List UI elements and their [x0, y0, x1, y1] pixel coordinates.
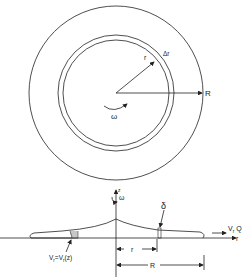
thickness-pointer: [160, 210, 164, 227]
dim-R-label: R: [150, 262, 155, 269]
velocity-profile-hatch: [70, 231, 78, 238]
radius-label: r: [144, 54, 147, 61]
outer-radius-label: R: [205, 89, 211, 98]
spinning-disk-diagram: R r Δr ω z ω δ VrQ r Vr=Vr(z) r R: [0, 0, 248, 277]
side-view: [0, 190, 236, 277]
z-axis-label: z: [118, 187, 121, 193]
film-profile: [30, 219, 204, 238]
dim-r-label: r: [131, 246, 134, 253]
outflow-label: VrQ: [228, 225, 242, 234]
rotation-arrow-icon: [104, 104, 127, 110]
thickness-label: δ: [161, 201, 166, 211]
profile-label: Vr=Vr(z): [49, 254, 72, 263]
ring-width-label: Δr: [163, 50, 170, 57]
profile-pointer: [66, 240, 71, 252]
r-axis-label: r: [236, 235, 239, 242]
top-view: [29, 6, 203, 180]
radius-arrow: [116, 62, 154, 93]
side-rotation-label: ω: [119, 194, 125, 201]
film-element: [158, 228, 161, 238]
rotation-label: ω: [111, 112, 117, 121]
